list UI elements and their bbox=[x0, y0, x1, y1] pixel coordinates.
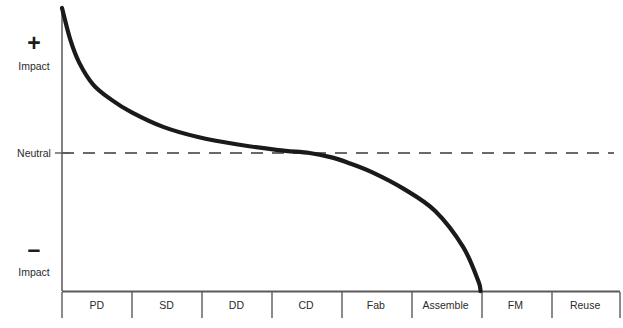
category-label-fab: Fab bbox=[367, 299, 385, 311]
category-label-dd: DD bbox=[229, 299, 245, 311]
y-positive-symbol: + bbox=[27, 30, 40, 56]
impact-lifecycle-chart: + Impact Neutral – Impact PDSDDDCDFabAss… bbox=[0, 0, 623, 328]
category-label-assemble: Assemble bbox=[423, 299, 469, 311]
category-ticks bbox=[62, 292, 620, 318]
impact-curve bbox=[62, 8, 481, 291]
y-negative-symbol: – bbox=[28, 236, 41, 262]
y-neutral-label: Neutral bbox=[17, 147, 51, 159]
category-label-fm: FM bbox=[508, 299, 523, 311]
category-label-cd: CD bbox=[299, 299, 315, 311]
y-negative-label: Impact bbox=[18, 266, 50, 278]
category-label-reuse: Reuse bbox=[570, 299, 601, 311]
category-label-sd: SD bbox=[159, 299, 174, 311]
category-label-pd: PD bbox=[90, 299, 105, 311]
chart-container: + Impact Neutral – Impact PDSDDDCDFabAss… bbox=[0, 0, 623, 328]
y-positive-label: Impact bbox=[18, 60, 50, 72]
category-labels: PDSDDDCDFabAssembleFMReuse bbox=[90, 299, 601, 311]
